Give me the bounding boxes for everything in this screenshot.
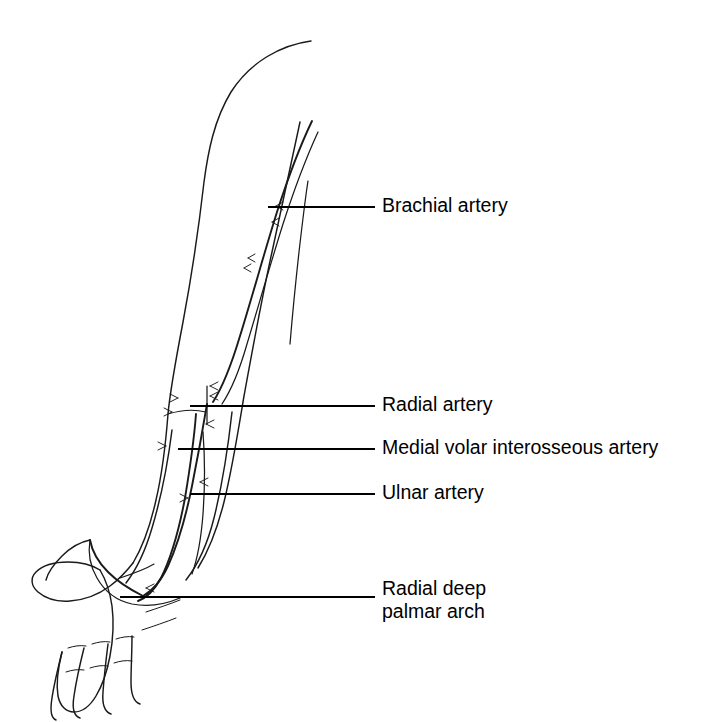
label-brachial-artery: Brachial artery	[382, 194, 508, 216]
anatomical-figure: Brachial artery Radial artery Medial vol…	[0, 0, 724, 722]
label-ulnar-artery: Ulnar artery	[382, 481, 484, 503]
arm-artery-diagram: Brachial artery Radial artery Medial vol…	[0, 0, 724, 722]
label-radial-artery: Radial artery	[382, 393, 493, 415]
label-medial-volar-interosseous-artery: Medial volar interosseous artery	[382, 436, 659, 458]
figure-background	[0, 0, 724, 722]
label-radial-deep-palmar-arch-line1: Radial deep	[382, 577, 486, 599]
label-radial-deep-palmar-arch-line2: palmar arch	[382, 600, 485, 622]
